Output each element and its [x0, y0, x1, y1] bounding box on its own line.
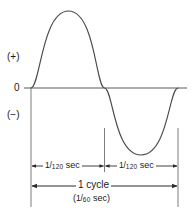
- dimension-unit-left: sec: [63, 160, 80, 170]
- fraction-one-over-120-left: 1/120: [45, 161, 63, 171]
- axis-label-zero: 0: [14, 83, 20, 93]
- sine-wave-figure: (+) 0 (−) 1/120 sec 1/120 sec 1 cycle (1…: [0, 0, 194, 218]
- fraction-one-over-120-right: 1/120: [119, 161, 137, 171]
- dimension-label-one-cycle-period: (1/60 sec): [71, 194, 112, 204]
- axis-label-positive: (+): [7, 52, 20, 62]
- fraction-one-over-60: 1/60: [76, 194, 90, 204]
- fraction-denominator: 120: [126, 163, 137, 170]
- dimension-label-half-cycle-right: 1/120 sec: [117, 161, 156, 171]
- dimension-label-half-cycle-left: 1/120 sec: [43, 161, 82, 171]
- paren-close: ): [107, 193, 110, 203]
- fraction-denominator: 120: [52, 163, 63, 170]
- axis-label-negative: (−): [7, 110, 20, 120]
- dimension-label-one-cycle: 1 cycle: [76, 180, 111, 190]
- dimension-unit-right: sec: [137, 160, 154, 170]
- dimension-unit-cycle: sec: [90, 193, 107, 203]
